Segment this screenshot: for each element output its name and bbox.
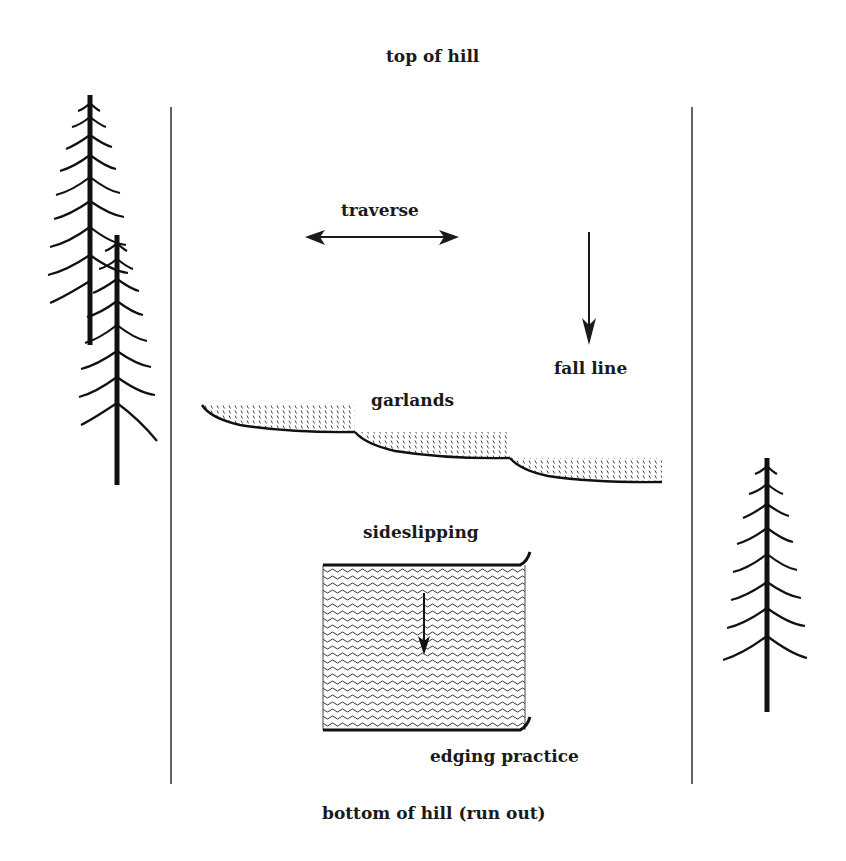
garlands-label: garlands [371,390,454,410]
traverse-arrow-icon [305,230,459,245]
top-of-hill-label: top of hill [386,46,479,66]
edging-practice-label: edging practice [430,746,579,766]
bottom-of-hill-label: bottom of hill (run out) [322,803,546,823]
ski-slope-diagram [0,0,846,861]
pine-tree-icon [723,458,807,712]
fall-line-label: fall line [554,358,627,378]
fall-line-arrow-icon [582,232,596,345]
traverse-label: traverse [341,200,419,220]
sideslipping-label: sideslipping [363,522,479,542]
garlands-path [202,405,662,482]
